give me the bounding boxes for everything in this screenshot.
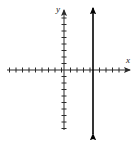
x-axis-label: x bbox=[125, 55, 130, 65]
y-axis-label: y bbox=[55, 4, 60, 14]
x-axis-group: x bbox=[7, 55, 130, 73]
coordinate-plane-svg: x y bbox=[0, 0, 139, 142]
y-axis-group: y bbox=[55, 4, 67, 130]
chart-figure: x y bbox=[0, 0, 139, 142]
